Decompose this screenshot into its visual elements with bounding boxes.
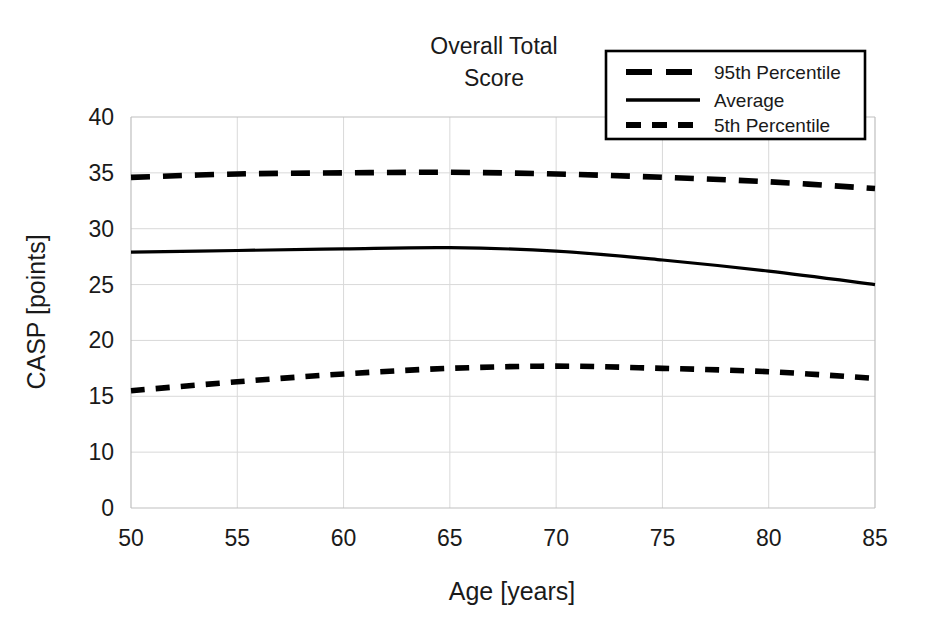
y-tick-label-10: 10 (88, 439, 114, 465)
x-axis-title: Age [years] (449, 577, 575, 605)
x-axis-tick-labels: 5055606570758085 (118, 525, 888, 551)
y-tick-label-25: 25 (88, 272, 114, 298)
legend-label: Average (714, 90, 784, 111)
chart-title-line-1: Overall Total (430, 33, 557, 59)
chart-title-line-2: Score (464, 65, 524, 91)
legend-label: 95th Percentile (714, 62, 841, 83)
x-tick-label-75: 75 (650, 525, 676, 551)
x-tick-label-55: 55 (224, 525, 250, 551)
legend-label: 5th Percentile (714, 115, 830, 136)
x-tick-label-50: 50 (118, 525, 144, 551)
y-tick-label-30: 30 (88, 216, 114, 242)
y-axis-tick-labels: 010152025303540 (88, 104, 114, 521)
y-tick-label-20: 20 (88, 327, 114, 353)
x-tick-label-80: 80 (756, 525, 782, 551)
chart-figure: 010152025303540 5055606570758085 Overall… (0, 0, 932, 640)
y-tick-label-40: 40 (88, 104, 114, 130)
overall-total-score-chart: 010152025303540 5055606570758085 Overall… (0, 0, 932, 640)
chart-legend: 95th PercentileAverage5th Percentile (606, 51, 865, 139)
y-tick-label-35: 35 (88, 160, 114, 186)
x-tick-label-70: 70 (543, 525, 569, 551)
y-tick-label-0: 0 (101, 495, 114, 521)
y-axis-title: CASP [points] (22, 234, 50, 389)
y-tick-label-15: 15 (88, 383, 114, 409)
x-tick-label-65: 65 (437, 525, 463, 551)
x-tick-label-60: 60 (331, 525, 357, 551)
x-tick-label-85: 85 (862, 525, 888, 551)
